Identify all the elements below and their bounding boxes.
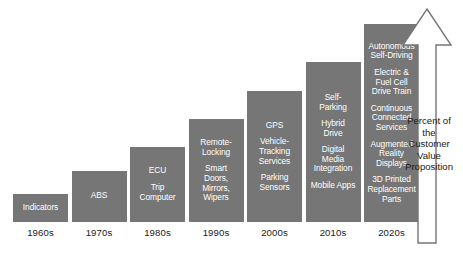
bar-feature-label: Vehicle- Tracking Services [259, 137, 290, 166]
x-axis-tick-2010s: 2010s [306, 227, 361, 239]
bar-feature-label: Hybrid Drive [321, 119, 345, 138]
bar-feature-label: ABS [91, 191, 107, 201]
value-axis-label: Percent of the Customer Value Propositio… [398, 115, 460, 173]
bar-feature-label: GPS [266, 121, 283, 131]
x-axis-tick-1970s: 1970s [72, 227, 127, 239]
x-axis-tick-2000s: 2000s [247, 227, 302, 239]
bar-1980s: ECUTrip Computer [130, 147, 185, 222]
bar-1990s: Remote- LockingSmart Doors, Mirrors, Wip… [189, 119, 244, 222]
x-axis-tick-1960s: 1960s [13, 227, 68, 239]
bar-feature-label: Smart Doors, Mirrors, Wipers [202, 164, 230, 202]
chart-page: Indicators1960sABS1970sECUTrip Computer1… [0, 0, 463, 253]
bar-feature-label: Indicators [23, 203, 58, 213]
bar-feature-label: Mobile Apps [311, 181, 356, 191]
bar-feature-label: Remote- Locking [200, 138, 231, 157]
bar-feature-label: Parking Sensors [259, 173, 289, 192]
x-axis-tick-1980s: 1980s [130, 227, 185, 239]
bar-feature-label: Digital Media Integration [314, 145, 352, 174]
bar-2000s: GPSVehicle- Tracking ServicesParking Sen… [247, 91, 302, 222]
bar-2010s: Self- ParkingHybrid DriveDigital Media I… [306, 62, 361, 222]
x-axis-tick-1990s: 1990s [189, 227, 244, 239]
bar-1960s: Indicators [13, 194, 68, 222]
bar-1970s: ABS [72, 171, 127, 222]
bar-feature-label: Self- Parking [319, 93, 347, 112]
bar-feature-label: ECU [149, 166, 166, 176]
bar-chart: Indicators1960sABS1970sECUTrip Computer1… [0, 0, 400, 253]
bar-feature-label: Trip Computer [140, 183, 176, 202]
